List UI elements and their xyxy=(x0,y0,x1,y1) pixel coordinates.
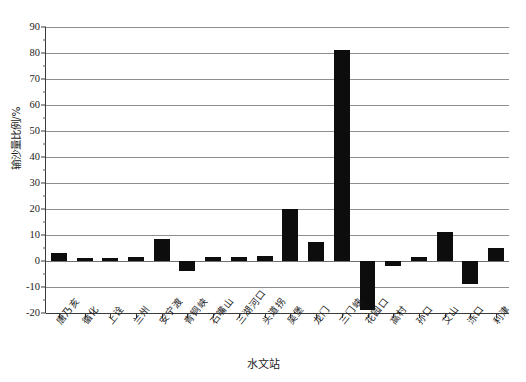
bar xyxy=(77,258,93,261)
bar-chart: 输沙量比例/% 9080706050403020100-10-20 唐乃亥循化上… xyxy=(0,0,526,382)
bar xyxy=(488,248,504,261)
bar xyxy=(462,261,478,284)
bar xyxy=(257,256,273,261)
y-tick-label: 50 xyxy=(30,126,47,137)
y-tick-label: 30 xyxy=(30,178,47,189)
y-tick-label: 70 xyxy=(30,74,47,85)
bar xyxy=(51,253,67,261)
bars xyxy=(46,27,508,313)
bar xyxy=(128,257,144,261)
y-tick-label: 10 xyxy=(30,230,47,241)
y-tick-label: 60 xyxy=(30,100,47,111)
bar xyxy=(231,257,247,261)
y-tick-label: 40 xyxy=(30,152,47,163)
y-axis-title: 输沙量比例/% xyxy=(8,106,23,170)
bar xyxy=(411,257,427,261)
bar xyxy=(308,242,324,262)
bar xyxy=(205,257,221,261)
bar xyxy=(334,50,350,261)
y-tick-label: -20 xyxy=(26,308,46,319)
y-tick-label: 90 xyxy=(30,22,47,33)
bar xyxy=(282,209,298,261)
x-axis-title: 水文站 xyxy=(0,355,526,371)
y-tick-label: 20 xyxy=(30,204,47,215)
y-tick-label: 80 xyxy=(30,48,47,59)
bar xyxy=(179,261,195,271)
bar xyxy=(154,239,170,261)
bar xyxy=(385,261,401,266)
y-tick-label: -10 xyxy=(26,282,46,293)
bar xyxy=(437,232,453,261)
y-tick-label: 0 xyxy=(35,256,46,267)
bar xyxy=(102,258,118,261)
plot-area: 9080706050403020100-10-20 xyxy=(45,27,508,313)
